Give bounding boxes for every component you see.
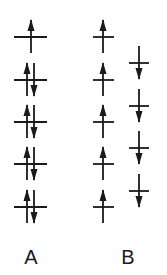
spin-up-arrow-icon [100,104,107,138]
energy-level [14,19,47,53]
energy-level [14,189,47,224]
spin-up-arrow-icon [100,62,107,96]
energy-level [93,189,114,223]
spin-diagram: A B [0,0,167,275]
spin-up-arrow-icon [24,189,31,223]
energy-level [129,89,149,123]
configuration-a [14,19,47,224]
energy-level [129,46,149,80]
spin-up-arrow-icon [24,104,31,138]
spin-up-arrow-icon [100,146,107,180]
diagram-root [14,19,149,224]
spin-up-arrow-icon [100,189,107,223]
energy-level [14,62,47,97]
energy-level [93,146,114,180]
energy-level [129,131,149,165]
spin-up-arrow-icon [100,19,107,53]
spin-up-arrow-icon [24,62,31,96]
spin-up-arrow-icon [28,19,35,53]
energy-level [93,104,114,138]
energy-level [14,104,47,139]
spin-up-arrow-icon [24,146,31,180]
label-a: A [24,246,38,268]
energy-level [14,146,47,181]
energy-level [93,19,114,53]
energy-level [93,62,114,96]
configuration-b [93,19,149,223]
energy-level [129,174,149,208]
label-b: B [121,246,134,268]
